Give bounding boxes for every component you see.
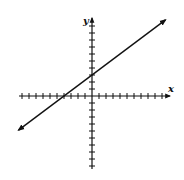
y-axis-label: y — [82, 15, 90, 26]
x-axis-label: x — [167, 83, 175, 94]
coordinate-plane: x y — [0, 0, 184, 180]
